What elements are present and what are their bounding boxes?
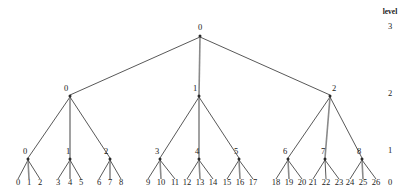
tree-leaf-label: 17 — [249, 177, 258, 187]
tree-edge — [199, 37, 200, 95]
tree-leaf-label: 9 — [146, 177, 150, 187]
tree-leaf-label: 16 — [236, 177, 245, 187]
tree-edge — [325, 97, 330, 158]
tree-node-dot — [287, 158, 290, 161]
tree-leaf-label: 25 — [359, 177, 368, 187]
tree-diagram-canvas: 0012012345678 01234567891011121314151617… — [0, 0, 414, 196]
tree-leaf-label: 5 — [79, 177, 83, 187]
tree-leaf-label: 23 — [335, 177, 344, 187]
tree-node-label: 1 — [66, 146, 70, 156]
tree-node-dot — [159, 158, 162, 161]
tree-node-dot — [198, 95, 201, 98]
tree-nodes-layer — [27, 35, 364, 161]
tree-leaf-label: 13 — [196, 177, 205, 187]
level-axis-layer: level3210 — [383, 7, 398, 187]
tree-diagram-figure: 0012012345678 01234567891011121314151617… — [0, 0, 414, 196]
level-axis-tick: 1 — [388, 145, 392, 155]
tree-node-dot — [329, 95, 332, 98]
tree-node-dot — [69, 95, 72, 98]
tree-leaf-label: 4 — [68, 177, 73, 187]
tree-edge — [70, 37, 200, 95]
tree-leaf-label: 24 — [346, 177, 355, 187]
level-axis-tick: 0 — [388, 177, 392, 187]
tree-node-label: 0 — [198, 22, 202, 32]
tree-leaf-label: 18 — [272, 177, 281, 187]
tree-node-dot — [238, 158, 241, 161]
level-axis-title: level — [383, 7, 398, 16]
tree-node-dot — [27, 158, 30, 161]
tree-node-label: 6 — [283, 146, 287, 156]
tree-node-label: 7 — [321, 146, 325, 156]
tree-leaf-label: 0 — [16, 177, 20, 187]
tree-edge — [160, 97, 199, 158]
tree-edge — [28, 97, 70, 158]
tree-node-dot — [109, 158, 112, 161]
tree-node-label: 5 — [234, 146, 238, 156]
tree-node-label: 1 — [193, 83, 197, 93]
tree-node-labels-layer: 0012012345678 — [23, 22, 361, 156]
tree-node-dot — [69, 158, 72, 161]
tree-node-dot — [198, 158, 201, 161]
tree-node-label: 3 — [155, 146, 159, 156]
tree-leaf-label: 12 — [183, 177, 192, 187]
tree-node-label: 0 — [23, 146, 27, 156]
tree-node-label: 0 — [64, 83, 68, 93]
tree-leaf-label: 1 — [27, 177, 31, 187]
tree-leaf-label: 19 — [285, 177, 294, 187]
tree-node-label: 8 — [357, 146, 361, 156]
tree-leaf-label: 14 — [209, 177, 218, 187]
tree-leaf-label: 8 — [119, 177, 123, 187]
tree-leaf-label: 21 — [309, 177, 318, 187]
tree-leaf-label: 6 — [97, 177, 101, 187]
tree-leaf-label: 11 — [171, 177, 179, 187]
tree-leaf-label: 15 — [223, 177, 232, 187]
tree-leaf-label: 22 — [322, 177, 331, 187]
tree-node-dot — [199, 35, 202, 38]
tree-leaf-label: 20 — [298, 177, 307, 187]
tree-node-dot — [361, 158, 364, 161]
tree-node-label: 2 — [332, 83, 336, 93]
level-axis-tick: 2 — [388, 88, 392, 98]
tree-edges-layer — [18, 37, 376, 179]
tree-edge — [200, 37, 330, 95]
tree-leaf-labels-layer: 0123456789101112131415161718192021222324… — [16, 177, 380, 187]
tree-node-label: 2 — [104, 146, 108, 156]
tree-leaf-label: 26 — [372, 177, 381, 187]
tree-leaf-label: 10 — [157, 177, 166, 187]
tree-node-dot — [324, 158, 327, 161]
tree-leaf-label: 2 — [38, 177, 42, 187]
level-axis-tick: 3 — [388, 21, 392, 31]
tree-leaf-label: 7 — [108, 177, 112, 187]
tree-leaf-label: 3 — [56, 177, 60, 187]
